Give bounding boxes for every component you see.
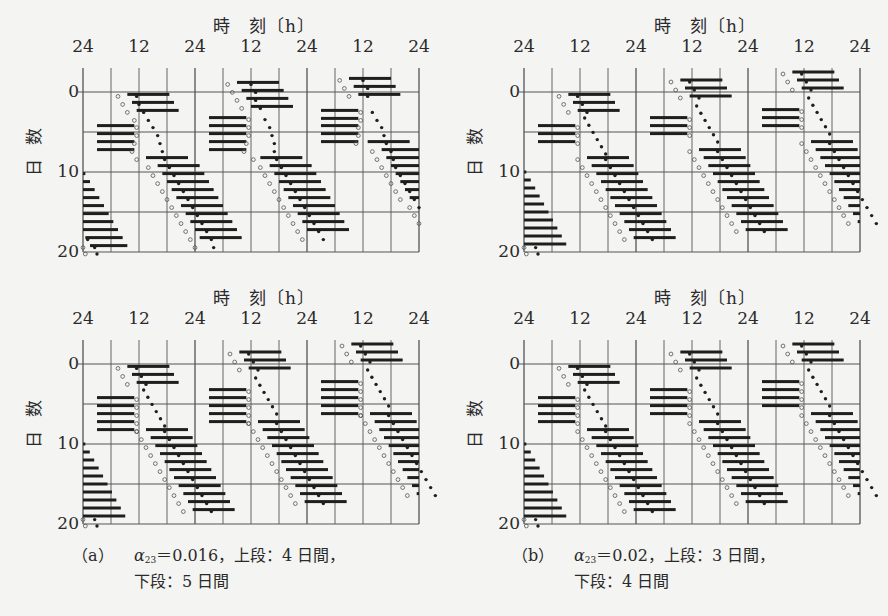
y-tick-label: 20 <box>490 513 520 533</box>
y-tick-label: 0 <box>490 353 520 373</box>
x-tick-label: 24 <box>513 308 535 328</box>
x-tick-label: 12 <box>569 308 591 328</box>
x-tick-label: 24 <box>296 308 318 328</box>
x-tick-label: 12 <box>128 308 150 328</box>
y-tick-label: 0 <box>49 81 79 101</box>
x-tick-label: 24 <box>737 308 759 328</box>
x-tick-label: 24 <box>296 36 318 56</box>
x-tick-label: 24 <box>513 36 535 56</box>
x-axis-title: 時 刻〔h〕 <box>654 284 756 309</box>
x-tick-label: 12 <box>352 36 374 56</box>
caption-b: （b）α23＝0.02，上段：3 日間， 下段：4 日間 <box>512 545 775 593</box>
x-tick-label: 24 <box>408 308 430 328</box>
x-tick-label: 12 <box>681 308 703 328</box>
y-tick-label: 0 <box>490 81 520 101</box>
alpha-symbol: α <box>574 546 585 565</box>
y-tick-label: 20 <box>49 241 79 261</box>
caption-a-text: ＝0.016，上段：4 日間， <box>156 546 345 565</box>
actogram-plot <box>81 64 421 254</box>
x-tick-label: 24 <box>625 36 647 56</box>
x-tick-label: 12 <box>569 36 591 56</box>
x-tick-label: 12 <box>352 308 374 328</box>
x-tick-label: 24 <box>849 36 871 56</box>
x-tick-label: 24 <box>184 308 206 328</box>
x-tick-label: 24 <box>72 308 94 328</box>
y-tick-label: 20 <box>490 241 520 261</box>
y-axis-title: 日数 <box>20 114 45 176</box>
x-tick-label: 24 <box>737 36 759 56</box>
x-tick-label: 12 <box>793 36 815 56</box>
y-tick-label: 20 <box>49 513 79 533</box>
y-tick-label: 10 <box>49 433 79 453</box>
caption-b-line2: 下段：4 日間 <box>574 572 669 591</box>
caption-a-label: （a） <box>72 545 134 567</box>
alpha-symbol: α <box>134 546 145 565</box>
caption-b-text: ＝0.02，上段：3 日間， <box>596 546 775 565</box>
x-tick-label: 24 <box>72 36 94 56</box>
x-tick-label: 24 <box>849 308 871 328</box>
x-tick-label: 12 <box>681 36 703 56</box>
y-tick-label: 10 <box>490 161 520 181</box>
x-tick-label: 12 <box>793 308 815 328</box>
y-tick-label: 10 <box>490 433 520 453</box>
x-tick-label: 24 <box>184 36 206 56</box>
x-tick-label: 24 <box>408 36 430 56</box>
actogram-plot <box>522 64 862 254</box>
caption-a: （a）α23＝0.016，上段：4 日間， 下段：5 日間 <box>72 545 345 593</box>
x-axis-title: 時 刻〔h〕 <box>213 12 315 37</box>
x-tick-label: 12 <box>240 36 262 56</box>
actogram-plot <box>522 336 862 526</box>
y-axis-title: 日数 <box>461 114 486 176</box>
caption-b-label: （b） <box>512 545 574 567</box>
x-axis-title: 時 刻〔h〕 <box>213 284 315 309</box>
x-tick-label: 24 <box>625 308 647 328</box>
y-tick-label: 10 <box>49 161 79 181</box>
y-axis-title: 日数 <box>461 386 486 448</box>
x-tick-label: 12 <box>240 308 262 328</box>
x-axis-title: 時 刻〔h〕 <box>654 12 756 37</box>
actogram-plot <box>81 336 421 526</box>
y-axis-title: 日数 <box>20 386 45 448</box>
caption-a-line2: 下段：5 日間 <box>134 572 229 591</box>
y-tick-label: 0 <box>49 353 79 373</box>
x-tick-label: 12 <box>128 36 150 56</box>
